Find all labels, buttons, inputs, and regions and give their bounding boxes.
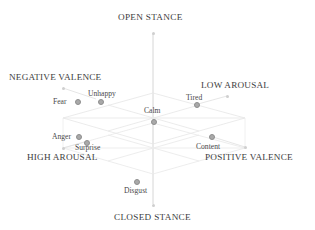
plot-canvas: OPEN STANCE CLOSED STANCE NEGATIVE VALEN… [0, 0, 315, 230]
axis-tip-marker [62, 147, 65, 150]
axis-label-high-arousal: HIGH AROUSAL [27, 152, 98, 162]
axis-label-negative-valence: NEGATIVE VALENCE [9, 72, 101, 82]
data-point-label: Content [196, 142, 220, 151]
axis-tip-marker [152, 32, 155, 35]
axis-tip-marker [244, 146, 247, 149]
axis-label-positive-valence: POSITIVE VALENCE [205, 152, 293, 162]
axis-label-closed-stance: CLOSED STANCE [114, 212, 191, 222]
axis-label-open-stance: OPEN STANCE [118, 12, 183, 22]
data-point-label: Tired [186, 93, 202, 102]
axis-tip-marker [226, 95, 229, 98]
data-point-label: Unhappy [88, 89, 116, 98]
axis-tip-marker [62, 87, 65, 90]
plot-grid-svg [0, 0, 315, 230]
axis-label-low-arousal: LOW AROUSAL [201, 80, 269, 90]
data-point-label: Disgust [124, 186, 147, 195]
data-point-label: Fear [53, 97, 67, 106]
data-point-label: Surprise [75, 143, 100, 152]
data-point-label: Anger [52, 132, 71, 141]
axis-tip-marker [152, 204, 155, 207]
data-point-label: Calm [144, 106, 160, 115]
